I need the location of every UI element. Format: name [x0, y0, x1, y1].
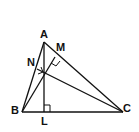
label-c: C	[123, 102, 131, 114]
label-l: L	[41, 115, 48, 127]
label-b: B	[11, 104, 19, 116]
right-angle-mark-l	[44, 105, 50, 112]
side-ab	[22, 42, 44, 112]
triangle-diagram: A M N B C L	[0, 0, 139, 132]
label-a: A	[40, 28, 48, 40]
label-m: M	[56, 41, 65, 53]
label-n: N	[27, 56, 35, 68]
